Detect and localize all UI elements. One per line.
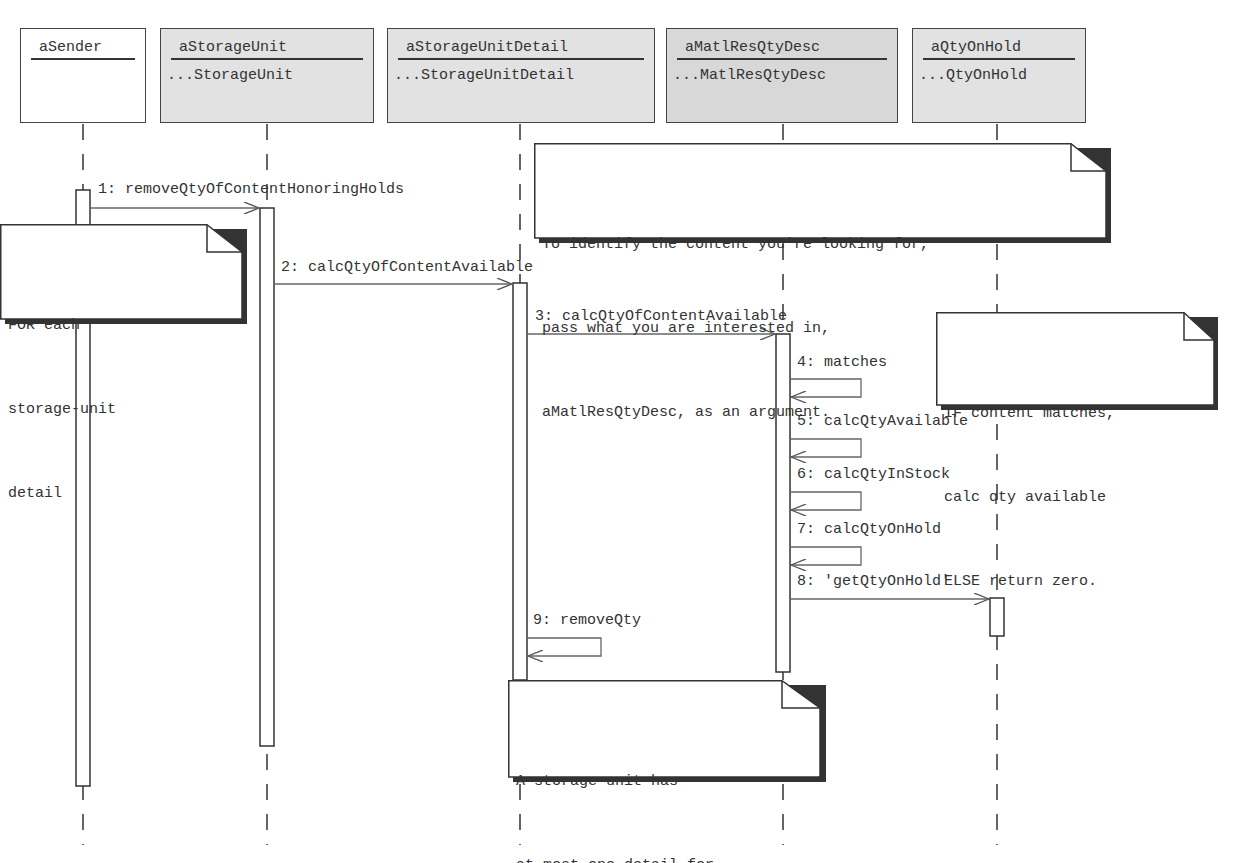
note-line: storage-unit [8,396,240,424]
message-label-9: 9: removeQty [533,612,641,629]
note-line: detail [8,480,240,508]
note-for-each-detail: FOR each storage-unit detail [0,224,248,320]
note-line: IF content matches, [944,400,1228,428]
message-label-2: 2: calcQtyOfContentAvailable [281,259,533,276]
note-line: ELSE return zero. [944,568,1228,596]
message-arrow-7 [790,547,861,565]
note-line: A storage unit has [516,768,816,796]
message-label-6: 6: calcQtyInStock [797,466,950,483]
message-label-7: 7: calcQtyOnHold [797,521,941,538]
note-line: calc qty available [944,484,1228,512]
note-if-content-matches: IF content matches, calc qty available E… [936,312,1236,408]
note-storage-unit-detail: A storage unit has at most one detail fo… [508,680,824,780]
message-arrow-6 [790,492,861,510]
note-line: FOR each [8,312,240,340]
note-identify-content: To identify the content you're looking f… [534,143,1112,239]
activation-astorageunit [260,208,274,746]
activation-astorageunitdetail [513,283,527,680]
note-line: To identify the content you're looking f… [542,231,1104,259]
note-line: at most one detail for [516,852,816,863]
message-arrow-9 [527,638,601,656]
message-label-8: 8: 'getQtyOnHold' [797,573,950,590]
message-label-1: 1: removeQtyOfContentHonoringHolds [98,181,404,198]
